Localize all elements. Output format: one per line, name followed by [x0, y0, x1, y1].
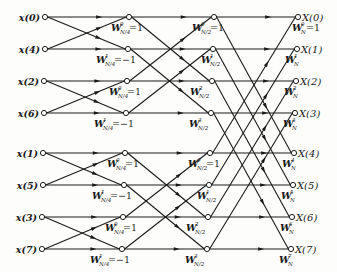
input-node — [42, 14, 47, 19]
stage1-twiddle-label: W0N/4=1 — [109, 85, 141, 99]
stage3-twiddle-label: W1N — [285, 53, 299, 67]
output-node — [291, 150, 296, 155]
stage2-twiddle-label: W2N/2 — [186, 221, 206, 235]
output-label: X(4) — [297, 148, 319, 159]
svg-text:=−1: =−1 — [114, 54, 136, 65]
svg-text:N: N — [291, 125, 297, 131]
flow-arrow-icon — [95, 35, 102, 41]
flow-arrow-icon — [93, 99, 100, 105]
stage2-node — [210, 46, 215, 51]
fft-flow-graph: x(0)x(4)x(2)x(6)x(1)x(5)x(3)x(7)X(0)X(1)… — [0, 0, 337, 272]
stage2-node — [207, 150, 212, 155]
flow-arrow-icon — [90, 235, 97, 241]
stage1-node — [124, 78, 129, 83]
svg-text:N: N — [293, 61, 299, 67]
svg-text:0: 0 — [118, 85, 122, 91]
flow-arrow-icon — [262, 135, 268, 142]
stage2-twiddle-label: W3N/2 — [185, 253, 205, 267]
flow-arrow-icon — [260, 183, 266, 187]
svg-text:=1: =1 — [123, 222, 137, 233]
svg-text:N: N — [289, 197, 295, 203]
svg-text:0: 0 — [301, 21, 305, 27]
svg-text:2: 2 — [194, 221, 199, 227]
stage1-twiddle-label: W1N/4=−1 — [94, 117, 134, 131]
input-node — [42, 46, 47, 51]
svg-text:4: 4 — [290, 157, 295, 163]
svg-text:7: 7 — [288, 253, 292, 259]
svg-text:N/2: N/2 — [209, 61, 221, 67]
svg-text:0: 0 — [116, 157, 120, 163]
flow-arrow-icon — [94, 79, 100, 83]
output-label: X(2) — [299, 76, 321, 87]
flow-arrow-icon — [92, 183, 98, 187]
stage1-node — [122, 150, 127, 155]
stage1-node — [125, 46, 130, 51]
output-node — [288, 246, 293, 251]
svg-text:=1: =1 — [206, 158, 220, 169]
svg-text:=1: =1 — [306, 22, 320, 33]
svg-text:1: 1 — [99, 253, 103, 259]
input-node — [41, 78, 46, 83]
svg-text:N/2: N/2 — [198, 93, 210, 99]
flow-arrow-icon — [91, 215, 97, 219]
svg-text:1: 1 — [294, 53, 298, 59]
flow-arrow-icon — [261, 151, 267, 155]
stage3-twiddle-label: W5N — [281, 189, 295, 203]
input-label: x(6) — [17, 108, 39, 119]
stage2-node — [204, 246, 209, 251]
svg-text:2: 2 — [198, 85, 203, 91]
flow-arrow-icon — [94, 111, 100, 115]
svg-text:1: 1 — [210, 53, 214, 59]
flow-arrow-icon — [174, 247, 180, 251]
input-label: x(5) — [16, 180, 38, 191]
butterfly-edges — [45, 15, 296, 251]
stage2-twiddle-label: W0N/2=1 — [192, 21, 224, 35]
stage1-node — [126, 14, 131, 19]
flow-arrow-icon — [92, 161, 99, 167]
svg-text:0: 0 — [120, 21, 124, 27]
svg-text:=1: =1 — [129, 22, 143, 33]
flow-arrow-icon — [261, 156, 267, 163]
stage1-twiddle-label: W1N/4=−1 — [96, 53, 136, 67]
flow-arrow-icon — [90, 247, 96, 251]
flow-arrow-icon — [181, 15, 187, 19]
stage2-twiddle-label: W3N/2 — [189, 117, 209, 131]
stage2-node — [208, 110, 213, 115]
svg-text:1: 1 — [103, 117, 107, 123]
output-label: X(1) — [300, 44, 322, 55]
flow-arrow-icon — [91, 225, 98, 231]
flow-arrow-icon — [265, 15, 271, 19]
svg-text:0: 0 — [197, 157, 201, 163]
svg-text:1: 1 — [105, 53, 109, 59]
stage2-node — [211, 14, 216, 19]
output-node — [290, 182, 295, 187]
svg-text:N/2: N/2 — [197, 125, 209, 131]
svg-text:2: 2 — [292, 85, 297, 91]
output-node — [294, 46, 299, 51]
flow-arrow-icon — [176, 183, 182, 187]
input-node — [41, 110, 46, 115]
stage2-twiddle-label: W0N/2=1 — [188, 157, 220, 171]
output-node — [292, 110, 297, 115]
flow-arrow-icon — [96, 15, 102, 19]
stage3-twiddle-label: W6N — [280, 221, 294, 235]
stage2-twiddle-label: W1N/2 — [201, 53, 221, 67]
flow-arrow-icon — [258, 247, 264, 251]
flow-arrow-icon — [94, 89, 101, 95]
stage1-twiddle-label: W1N/4=−1 — [92, 189, 132, 203]
input-label: x(2) — [17, 76, 39, 87]
input-node — [40, 182, 45, 187]
svg-text:=−1: =−1 — [110, 190, 132, 201]
flow-arrow-icon — [179, 79, 185, 83]
svg-text:1: 1 — [101, 189, 105, 195]
svg-text:3: 3 — [194, 253, 198, 259]
svg-text:N: N — [287, 261, 293, 267]
output-node — [295, 14, 300, 19]
svg-text:N/2: N/2 — [194, 229, 206, 235]
input-node — [40, 150, 45, 155]
output-node — [293, 78, 298, 83]
stage1-twiddle-label: W1N/4=−1 — [90, 253, 130, 267]
flow-arrow-icon — [262, 124, 268, 131]
stage2-twiddle-label: W2N/2 — [190, 85, 210, 99]
stage1-node — [120, 214, 125, 219]
